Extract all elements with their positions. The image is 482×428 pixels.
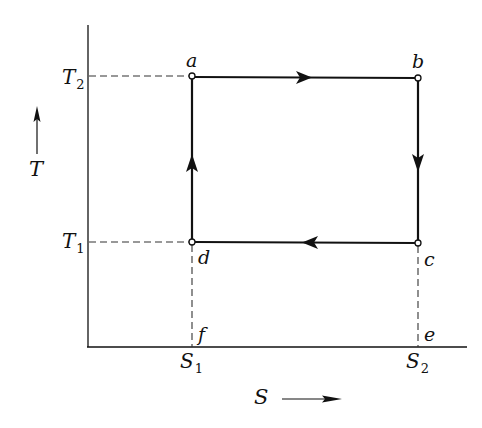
label-s1: S1	[180, 349, 203, 376]
label-d: d	[198, 246, 210, 268]
label-c: c	[424, 248, 435, 270]
point-d	[189, 239, 195, 245]
point-c	[415, 240, 421, 246]
right-arrow-icon	[322, 396, 342, 403]
ts-diagram: a b c d e f T2 T1 S1 S2 T S	[0, 0, 482, 428]
label-e: e	[424, 323, 435, 345]
label-t2: T2	[62, 65, 85, 92]
point-a	[189, 73, 195, 79]
label-a: a	[186, 49, 197, 71]
label-b: b	[412, 50, 424, 72]
point-b	[415, 75, 421, 81]
s-axis-label: S	[254, 385, 268, 409]
label-t1: T1	[62, 229, 85, 256]
label-f: f	[196, 323, 208, 345]
t-axis-label: T	[29, 157, 45, 181]
label-s2: S2	[406, 349, 429, 376]
